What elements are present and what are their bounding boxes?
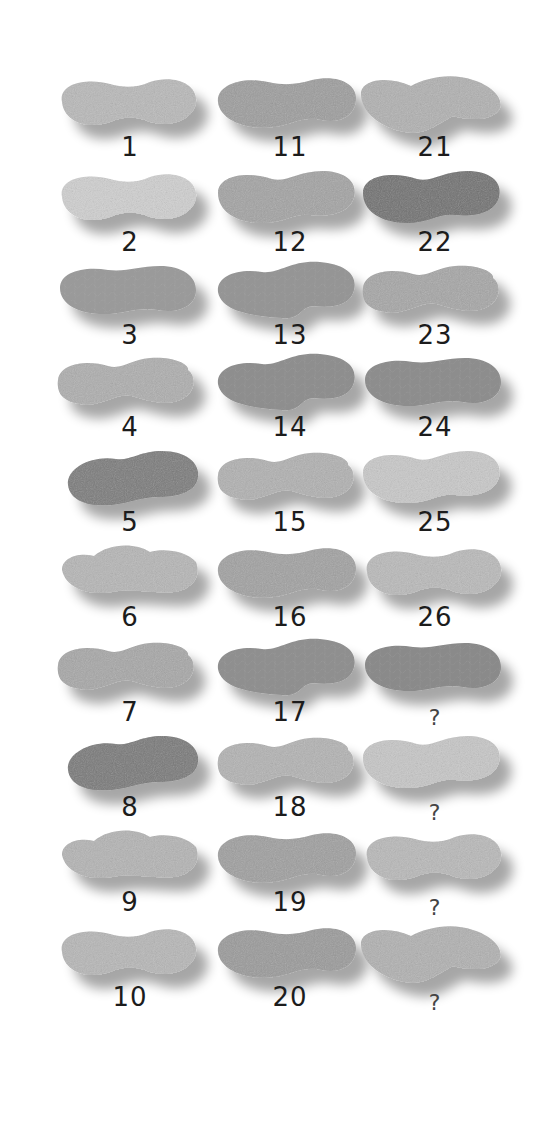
peanut-item: 21 [355,70,515,170]
peanut-item: 25 [355,445,515,545]
peanut-shell-icon [355,350,515,414]
question-mark-label: ? [355,705,515,730]
peanut-shell-icon [210,635,370,699]
peanut-shell-icon [210,350,370,414]
peanut-shell-icon [355,258,515,322]
peanut-item: 23 [355,258,515,358]
question-mark-label: ? [355,895,515,920]
peanut-shell-icon [50,920,210,984]
peanut-number-label: 1 [50,132,210,162]
peanut-shell-icon [210,70,370,134]
peanut-item: 6 [50,540,210,640]
peanut-number-label: 20 [210,982,370,1012]
peanut-item: 22 [355,165,515,265]
peanut-shell-icon [355,825,515,889]
unknown-peanut-item: ? [355,730,515,830]
peanut-number-label: 4 [50,412,210,442]
peanut-item: 18 [210,730,370,830]
peanut-number-label: 16 [210,602,370,632]
peanut-shell-icon [355,445,515,509]
peanut-item: 7 [50,635,210,735]
peanut-number-label: 10 [50,982,210,1012]
peanut-item: 1 [50,70,210,170]
peanut-item: 3 [50,258,210,358]
peanut-item: 17 [210,635,370,735]
peanut-item: 11 [210,70,370,170]
question-mark-label: ? [355,990,515,1015]
question-mark-label: ? [355,800,515,825]
peanut-number-label: 3 [50,320,210,350]
peanut-shell-icon [210,730,370,794]
peanut-item: 26 [355,540,515,640]
peanut-number-label: 2 [50,227,210,257]
peanut-shell-icon [355,70,515,134]
peanut-number-label: 23 [355,320,515,350]
peanut-item: 12 [210,165,370,265]
peanut-shell-icon [50,540,210,604]
peanut-item: 8 [50,730,210,830]
peanut-shell-icon [210,258,370,322]
peanut-shell-icon [50,350,210,414]
unknown-peanut-item: ? [355,825,515,925]
peanut-number-label: 24 [355,412,515,442]
peanut-shell-icon [50,730,210,794]
peanut-item: 20 [210,920,370,1020]
peanut-item: 2 [50,165,210,265]
peanut-number-label: 26 [355,602,515,632]
peanut-number-label: 6 [50,602,210,632]
peanut-number-label: 19 [210,887,370,917]
peanut-number-label: 8 [50,792,210,822]
peanut-shell-icon [50,70,210,134]
peanut-number-label: 25 [355,507,515,537]
peanut-item: 5 [50,445,210,545]
peanut-shell-icon [355,920,515,984]
peanut-number-label: 22 [355,227,515,257]
peanut-shell-icon [210,920,370,984]
peanut-shell-icon [50,635,210,699]
peanut-item: 24 [355,350,515,450]
peanut-shell-icon [210,165,370,229]
peanut-shell-icon [50,258,210,322]
peanut-item: 19 [210,825,370,925]
peanut-shell-icon [355,635,515,699]
peanut-number-label: 12 [210,227,370,257]
peanut-number-label: 9 [50,887,210,917]
peanut-shell-icon [355,730,515,794]
peanut-number-label: 14 [210,412,370,442]
peanut-shell-icon [210,445,370,509]
peanut-item: 14 [210,350,370,450]
peanut-shell-icon [50,825,210,889]
peanut-shell-icon [355,165,515,229]
peanut-item: 4 [50,350,210,450]
peanut-item: 13 [210,258,370,358]
peanut-item: 15 [210,445,370,545]
peanut-number-label: 15 [210,507,370,537]
peanut-shell-icon [210,825,370,889]
peanut-shell-icon [50,165,210,229]
peanut-item: 16 [210,540,370,640]
peanut-number-label: 5 [50,507,210,537]
peanut-shell-icon [355,540,515,604]
peanut-number-label: 21 [355,132,515,162]
peanut-number-label: 17 [210,697,370,727]
peanut-item: 10 [50,920,210,1020]
peanut-shell-icon [50,445,210,509]
peanut-number-label: 11 [210,132,370,162]
peanut-item: 9 [50,825,210,925]
unknown-peanut-item: ? [355,635,515,735]
peanut-number-label: 7 [50,697,210,727]
peanut-number-label: 13 [210,320,370,350]
peanut-number-label: 18 [210,792,370,822]
unknown-peanut-item: ? [355,920,515,1020]
peanut-shell-icon [210,540,370,604]
